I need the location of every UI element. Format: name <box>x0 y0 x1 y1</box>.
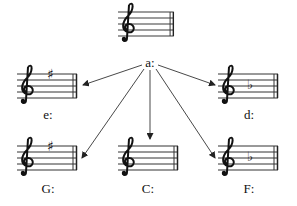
label-c-major: C: <box>142 182 154 195</box>
sharp-icon: ♯ <box>47 138 54 154</box>
label-a-minor: a: <box>145 56 154 69</box>
label-e-minor: e: <box>43 108 52 121</box>
flat-icon: ♭ <box>247 149 253 164</box>
label-g-major: G: <box>42 182 55 195</box>
staff-e-minor: ♯ <box>17 66 77 104</box>
staff-d-minor: ♭ <box>218 66 278 104</box>
staff-c-major <box>118 138 178 176</box>
staff-a-minor <box>118 4 174 42</box>
arrows <box>82 65 215 158</box>
arrow-to-e <box>83 65 142 85</box>
arrow-to-d <box>158 65 215 85</box>
staff-f-major: ♭ <box>218 138 278 176</box>
label-f-major: F: <box>244 182 255 195</box>
sharp-icon: ♯ <box>47 66 54 82</box>
flat-icon: ♭ <box>247 77 253 92</box>
label-d-minor: d: <box>244 108 254 121</box>
staff-g-major: ♯ <box>17 138 77 176</box>
key-relationship-diagram: ♯ ♭ ♯ ♭ <box>0 0 297 206</box>
